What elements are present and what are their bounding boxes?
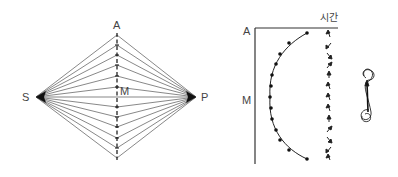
label-a-right: A bbox=[243, 26, 250, 37]
label-s: S bbox=[22, 92, 29, 103]
time-graph bbox=[255, 28, 338, 164]
label-m-left: M bbox=[120, 86, 129, 97]
trajectory-points bbox=[268, 31, 309, 161]
arrow-icon bbox=[327, 71, 331, 78]
arrow-icon bbox=[326, 93, 330, 100]
arrow-icon bbox=[327, 126, 332, 132]
arrow-icon bbox=[326, 154, 330, 160]
diagram-canvas bbox=[0, 0, 398, 177]
direction-arrows-column bbox=[326, 30, 332, 160]
arrow-icon bbox=[326, 147, 331, 153]
rays-from-s bbox=[36, 35, 117, 158]
arrow-icon bbox=[326, 82, 330, 89]
arrow-icon bbox=[327, 137, 332, 143]
label-p: P bbox=[201, 92, 208, 103]
arrow-icon bbox=[326, 30, 330, 37]
arrow-icon bbox=[327, 115, 331, 122]
diamond-ray-diagram bbox=[36, 33, 196, 160]
arrow-icon bbox=[326, 43, 331, 49]
label-time-axis: 시간 bbox=[320, 13, 338, 23]
arrow-icon bbox=[326, 104, 330, 111]
label-m-right: M bbox=[242, 95, 251, 106]
loop-trace bbox=[361, 69, 374, 122]
arrow-icon bbox=[327, 62, 332, 68]
arrow-icon bbox=[327, 53, 332, 59]
trajectory-curve bbox=[270, 33, 307, 159]
label-a-left: A bbox=[113, 20, 120, 31]
